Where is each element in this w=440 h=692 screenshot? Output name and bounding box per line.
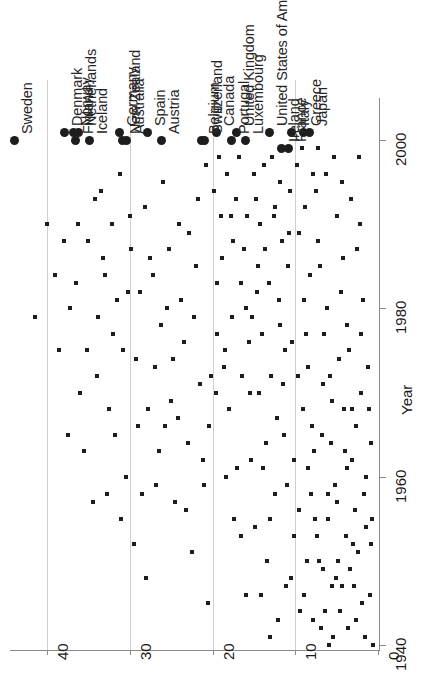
data-point [235,466,239,470]
data-point [336,559,340,563]
data-point [304,332,308,336]
data-point [220,256,224,260]
data-point [187,231,191,235]
data-point [57,348,61,352]
data-point [355,247,359,251]
data-point [351,542,355,546]
data-point [302,298,306,302]
data-point [215,332,219,336]
data-point [118,172,122,176]
data-point [190,550,194,554]
data-point [260,332,264,336]
country-label-austria: Austria [167,90,182,134]
data-point [237,155,241,159]
data-point [343,449,347,453]
data-point [268,635,272,639]
data-point [196,197,200,201]
data-point [214,391,218,395]
data-point [306,466,310,470]
data-point [330,399,334,403]
data-point [322,332,326,336]
data-point [331,635,335,639]
data-point [278,180,282,184]
data-point [286,264,290,268]
data-point [212,189,216,193]
data-point [342,407,346,411]
data-point [85,348,89,352]
data-point [362,492,366,496]
year-tick-label-1960: 1960 [392,470,409,503]
data-point [215,281,219,285]
data-point [179,298,183,302]
data-point [311,172,315,176]
data-point [340,180,344,184]
country-label-australia: Australia [132,78,147,134]
data-point [268,517,272,521]
data-point [287,231,291,235]
data-point [360,601,364,605]
data-point [95,374,99,378]
data-point [101,256,105,260]
data-point [292,458,296,462]
year-tick-label-1940: 1940 [392,638,409,671]
data-point [153,365,157,369]
data-point [312,449,316,453]
data-point [335,500,339,504]
data-point [329,441,333,445]
data-point [358,222,362,226]
data-point [143,205,147,209]
data-point [224,475,228,479]
data-point [321,382,325,386]
latest-point-united-states-of-america [265,128,274,137]
data-point [161,180,165,184]
data-point [252,172,256,176]
data-point [347,348,351,352]
data-point [318,264,322,268]
data-point [273,205,277,209]
latest-point-france [284,144,293,153]
data-point [165,306,169,310]
data-point [353,508,357,512]
data-point [263,247,267,251]
data-point [316,146,320,150]
data-point [45,222,49,226]
gridline-value-40 [47,80,48,650]
data-point [138,290,142,294]
data-point [323,609,327,613]
latest-point-australia [122,136,131,145]
data-point [204,163,208,167]
data-point [319,626,323,630]
data-point [68,306,72,310]
latest-point-portugal [227,136,236,145]
data-point [136,424,140,428]
tick-year-1960 [380,477,386,478]
data-point [345,466,349,470]
data-point [296,374,300,378]
data-point [349,197,353,201]
data-point [366,365,370,369]
data-point [370,517,374,521]
data-point [350,407,354,411]
data-point [354,424,358,428]
data-point [261,466,265,470]
data-point [192,315,196,319]
data-point [297,231,301,235]
data-point [363,635,367,639]
data-point [144,576,148,580]
data-point [96,315,100,319]
data-point [229,214,233,218]
data-point [227,407,231,411]
value-tick-label-30: 30 [137,643,154,660]
data-point [82,449,86,453]
data-point [332,155,336,159]
data-point [352,584,356,588]
data-point [256,264,260,268]
data-point [240,374,244,378]
data-point [140,492,144,496]
data-point [371,643,375,647]
tick-value-30 [130,650,131,655]
value-tick-label-20: 20 [220,643,237,660]
data-point [272,214,276,218]
data-point [361,298,365,302]
data-point [330,584,334,588]
